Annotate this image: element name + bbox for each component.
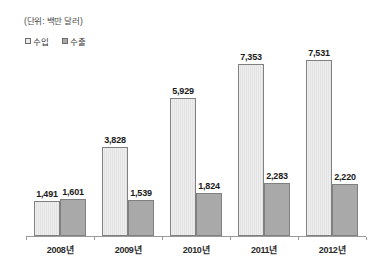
category-label: 2011년 [234,243,294,256]
bar-value-label: 1,491 [36,189,58,199]
bar-value-label: 2,283 [266,171,288,181]
bar-import[interactable]: 1,491 [34,201,60,236]
plot-area: 1,4911,6013,8281,5395,9291,8247,3532,283… [26,40,366,237]
axis-tick [94,237,95,240]
bar-value-label: 7,353 [240,52,262,62]
bar-chart: (단위: 백만 달러) 수입 수출 1,4911,6013,8281,5395,… [0,0,382,278]
bar-export[interactable]: 2,220 [332,184,358,236]
bar-export[interactable]: 1,539 [128,200,154,236]
bar-value-label: 7,531 [308,48,330,58]
bar-value-label: 1,539 [130,188,152,198]
bar-value-label: 3,828 [104,135,126,145]
bar-import[interactable]: 5,929 [170,98,196,236]
bar-value-label: 1,601 [62,187,84,197]
category-label: 2012년 [302,243,362,256]
bar-export[interactable]: 1,824 [196,193,222,236]
bar-export[interactable]: 1,601 [60,199,86,236]
axis-tick [162,237,163,240]
axis-tick [26,237,27,240]
unit-note: (단위: 백만 달러) [24,14,83,26]
bar-import[interactable]: 7,353 [238,64,264,236]
bar-value-label: 2,220 [334,172,356,182]
axis-tick [230,237,231,240]
x-axis-line [26,236,366,237]
category-label: 2010년 [166,243,226,256]
category-label: 2008년 [30,243,90,256]
axis-tick [366,237,367,240]
bar-export[interactable]: 2,283 [264,183,290,236]
axis-tick [298,237,299,240]
bar-value-label: 1,824 [198,181,220,191]
bar-import[interactable]: 7,531 [306,60,332,236]
bar-value-label: 5,929 [172,86,194,96]
bar-import[interactable]: 3,828 [102,147,128,236]
category-label: 2009년 [98,243,158,256]
